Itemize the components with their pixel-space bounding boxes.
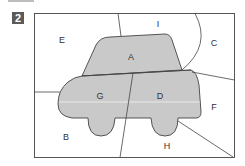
region-label-d: D	[157, 91, 164, 101]
region-label-e: E	[59, 35, 65, 45]
region-diagram: A B C D E F G H I	[0, 0, 245, 166]
divider-c-f	[192, 72, 235, 80]
region-label-c: C	[211, 38, 218, 48]
region-label-i: I	[157, 19, 160, 29]
divider-f-h	[178, 121, 233, 157]
divider-i-c-curve	[182, 14, 201, 71]
region-label-h: H	[164, 141, 171, 151]
divider-e-i	[118, 14, 121, 37]
region-label-b: B	[63, 132, 69, 142]
region-label-f: F	[211, 102, 217, 112]
region-label-a: A	[128, 52, 134, 62]
region-label-g: G	[96, 91, 103, 101]
car-lower-body	[58, 70, 201, 136]
